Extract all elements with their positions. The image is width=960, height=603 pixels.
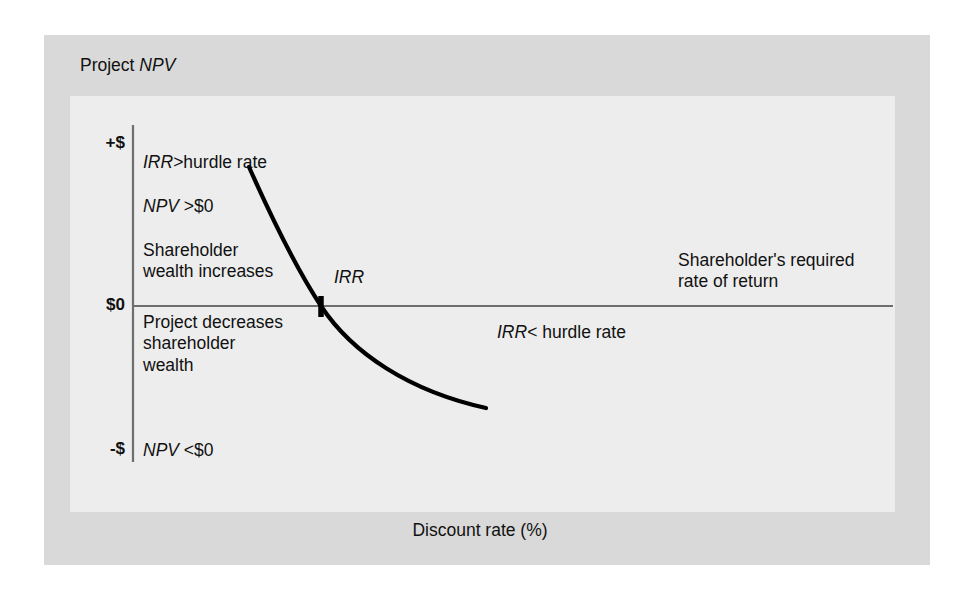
y-tick-zero: $0 (83, 295, 125, 316)
annotation-irr-above-hurdle-rest: >hurdle rate (173, 152, 267, 172)
annotation-npv-negative-rest: <$0 (179, 440, 214, 460)
annotation-irr-above-hurdle: IRR>hurdle rate (143, 152, 267, 173)
annotation-irr-below-hurdle-rest: < hurdle rate (527, 322, 626, 342)
annotation-required-rate-of-return: Shareholder's required rate of return (678, 250, 855, 293)
annotation-npv-positive-rest: >$0 (179, 196, 214, 216)
annotation-irr-below-hurdle: IRR< hurdle rate (497, 322, 626, 343)
y-tick-negative: -$ (83, 439, 125, 460)
npv-profile-curve (249, 167, 486, 408)
annotation-npv-negative-italic: NPV (143, 440, 179, 460)
figure-title: Project NPV (80, 55, 175, 76)
plot-graphics (0, 0, 960, 603)
y-tick-positive: +$ (83, 133, 125, 154)
npv-irr-figure: Project NPV +$ $0 -$ IRR>hurdle rate NPV… (0, 0, 960, 603)
annotation-wealth-increases: Shareholder wealth increases (143, 240, 273, 283)
figure-title-italic: NPV (139, 55, 175, 75)
x-axis-label: Discount rate (%) (0, 520, 960, 541)
figure-title-plain: Project (80, 55, 139, 75)
irr-point-label: IRR (334, 267, 364, 288)
annotation-irr-above-hurdle-italic: IRR (143, 152, 173, 172)
annotation-npv-positive: NPV >$0 (143, 196, 214, 217)
annotation-wealth-decreases: Project decreases shareholder wealth (143, 312, 283, 376)
annotation-irr-below-hurdle-italic: IRR (497, 322, 527, 342)
annotation-npv-negative: NPV <$0 (143, 440, 214, 461)
annotation-npv-positive-italic: NPV (143, 196, 179, 216)
